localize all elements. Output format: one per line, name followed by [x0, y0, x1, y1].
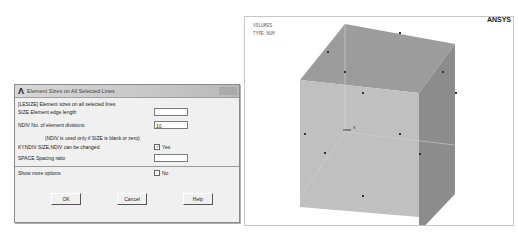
ok-button[interactable]: OK	[51, 193, 81, 205]
kyndiv-value: Yes	[162, 144, 170, 150]
ndiv-input[interactable]: 10	[154, 121, 188, 129]
ndiv-label: NDIV No. of element divisions	[18, 122, 84, 128]
help-button[interactable]: Help	[183, 193, 213, 205]
divider	[15, 166, 239, 167]
dialog-title: Element Sizes on All Selected Lines	[27, 88, 115, 94]
cancel-button[interactable]: Cancel	[117, 193, 147, 205]
more-options-label: Show more options	[18, 170, 61, 176]
graphics-window[interactable]: VOLUMES TYPE NUM ANSYS X	[244, 16, 514, 226]
checkbox-empty-icon	[154, 170, 160, 176]
close-icon[interactable]	[219, 87, 237, 95]
kyndiv-checkbox[interactable]: ✓ Yes	[154, 144, 170, 150]
more-options-checkbox[interactable]: No	[154, 170, 168, 176]
more-options-value: No	[162, 170, 168, 176]
ndiv-note: (NDIV is used only if SIZE is blank or z…	[45, 135, 140, 141]
space-input[interactable]	[154, 154, 188, 162]
dialog-titlebar[interactable]: Λ Element Sizes on All Selected Lines	[15, 85, 239, 98]
ansys-logo-icon: Λ	[18, 86, 24, 96]
cube-volume-icon: X	[245, 17, 513, 225]
size-input[interactable]	[154, 108, 188, 116]
dialog-header: [LESIZE] Element sizes on all selected l…	[18, 101, 116, 107]
element-sizes-dialog: Λ Element Sizes on All Selected Lines [L…	[14, 84, 240, 223]
svg-text:X: X	[353, 125, 356, 130]
space-label: SPACE Spacing ratio	[18, 155, 65, 161]
kyndiv-label: KYNDIV SIZE,NDIV can be changed	[18, 144, 99, 150]
checkmark-icon: ✓	[154, 144, 160, 150]
size-label: SIZE Element edge length	[18, 109, 76, 115]
